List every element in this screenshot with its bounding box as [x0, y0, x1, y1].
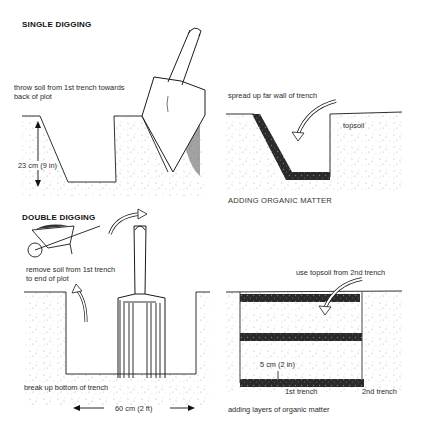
layer-thickness-label: 5 cm (2 in) — [260, 360, 295, 369]
double-digging-title: DOUBLE DIGGING — [22, 213, 95, 222]
layers-instruction: use topsoil from 2nd trench — [296, 268, 385, 277]
second-trench-label: 2nd trench — [362, 387, 397, 396]
topsoil-label: topsoil — [343, 121, 364, 130]
organic-instruction: spread up far wall of trench — [228, 91, 317, 100]
single-digging-depth-label: 23 cm (9 in) — [18, 161, 57, 170]
layers-caption: adding layers of organic matter — [228, 405, 329, 414]
single-digging-title: SINGLE DIGGING — [22, 20, 91, 29]
break-up-label: break up bottom of trench — [24, 383, 108, 392]
double-digging-instruction-line1: remove soil from 1st trench — [26, 265, 115, 274]
single-digging-panel — [22, 28, 205, 196]
organic-layer-middle — [240, 333, 362, 341]
first-trench-label: 1st trench — [285, 387, 317, 396]
single-digging-instruction-line1: throw soil from 1st trench towards — [14, 83, 125, 92]
adding-organic-panel — [226, 101, 402, 192]
width-measurement-label: 60 cm (2 ft) — [115, 404, 152, 413]
organic-layer-top — [240, 294, 360, 302]
wheelbarrow-icon — [28, 225, 100, 257]
organic-layer-bottom — [240, 379, 364, 387]
layers-panel — [226, 279, 402, 392]
double-digging-panel — [24, 209, 210, 411]
single-digging-instruction-line2: back of plot — [14, 92, 52, 101]
adding-organic-caption: ADDING ORGANIC MATTER — [228, 196, 332, 205]
double-digging-instruction-line2: to end of plot — [26, 274, 69, 283]
garden-fork-icon — [118, 226, 165, 378]
